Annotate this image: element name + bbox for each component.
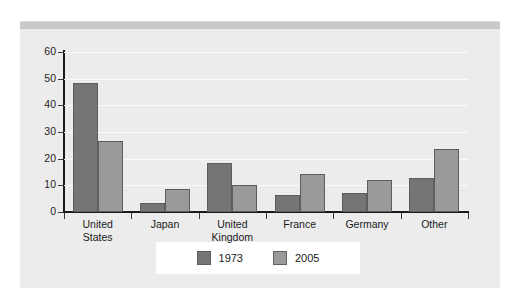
x-axis-tick bbox=[266, 213, 267, 219]
bar-1973-germany bbox=[342, 193, 367, 212]
y-axis-tick bbox=[58, 185, 63, 186]
x-axis-category-label: Other bbox=[401, 218, 468, 231]
bar-1973-united-kingdom bbox=[207, 163, 232, 212]
y-axis-labels: 0102030405060 bbox=[20, 30, 56, 230]
plot-area bbox=[64, 52, 468, 212]
gridline bbox=[64, 132, 468, 133]
x-axis-tick bbox=[131, 213, 132, 219]
legend-label-2005: 2005 bbox=[295, 252, 319, 264]
chart-figure: 0102030405060 1973 2005 UnitedStatesJapa… bbox=[0, 0, 513, 307]
gridline bbox=[64, 159, 468, 160]
gridline bbox=[64, 79, 468, 80]
y-axis-tick bbox=[58, 212, 63, 213]
x-axis-tick bbox=[468, 213, 469, 219]
bar-2005-france bbox=[300, 174, 325, 212]
gridline bbox=[64, 185, 468, 186]
y-axis-tick bbox=[58, 159, 63, 160]
x-axis-tick bbox=[333, 213, 334, 219]
y-axis-tick-label: 30 bbox=[26, 126, 56, 136]
y-axis-tick-label: 20 bbox=[26, 153, 56, 163]
y-axis-tick-label: 0 bbox=[26, 206, 56, 216]
legend-swatch-2005 bbox=[273, 251, 287, 265]
bar-2005-germany bbox=[367, 180, 392, 212]
x-axis-category-label: Germany bbox=[333, 218, 400, 231]
legend-item-2005[interactable]: 2005 bbox=[273, 251, 319, 265]
legend-item-1973[interactable]: 1973 bbox=[197, 251, 243, 265]
y-axis-tick-label: 50 bbox=[26, 73, 56, 83]
bar-1973-france bbox=[275, 195, 300, 212]
y-axis-tick-label: 60 bbox=[26, 46, 56, 56]
chart-panel: 0102030405060 1973 2005 UnitedStatesJapa… bbox=[20, 30, 500, 288]
chart-legend: 1973 2005 bbox=[156, 242, 360, 274]
gridline bbox=[64, 52, 468, 53]
x-axis-category-label: France bbox=[266, 218, 333, 231]
y-axis-tick bbox=[58, 105, 63, 106]
y-axis-tick bbox=[58, 132, 63, 133]
x-axis-tick bbox=[401, 213, 402, 219]
gridline bbox=[64, 105, 468, 106]
bar-2005-other bbox=[434, 149, 459, 212]
bar-2005-japan bbox=[165, 189, 190, 212]
x-axis-tick bbox=[199, 213, 200, 219]
x-axis-category-label: UnitedStates bbox=[64, 218, 131, 243]
top-rule-divider bbox=[20, 21, 500, 30]
x-axis-category-label: UnitedKingdom bbox=[199, 218, 266, 243]
y-axis-tick bbox=[58, 52, 63, 53]
y-axis-tick bbox=[58, 79, 63, 80]
y-axis-tick-label: 10 bbox=[26, 179, 56, 189]
bar-1973-united-states bbox=[73, 83, 98, 212]
y-axis-tick-label: 40 bbox=[26, 99, 56, 109]
legend-label-1973: 1973 bbox=[219, 252, 243, 264]
x-axis-tick bbox=[64, 213, 65, 219]
bar-1973-other bbox=[409, 178, 434, 212]
legend-swatch-1973 bbox=[197, 251, 211, 265]
x-axis-category-label: Japan bbox=[131, 218, 198, 231]
bar-2005-united-states bbox=[98, 141, 123, 212]
bar-1973-japan bbox=[140, 203, 165, 212]
bar-2005-united-kingdom bbox=[232, 185, 257, 212]
